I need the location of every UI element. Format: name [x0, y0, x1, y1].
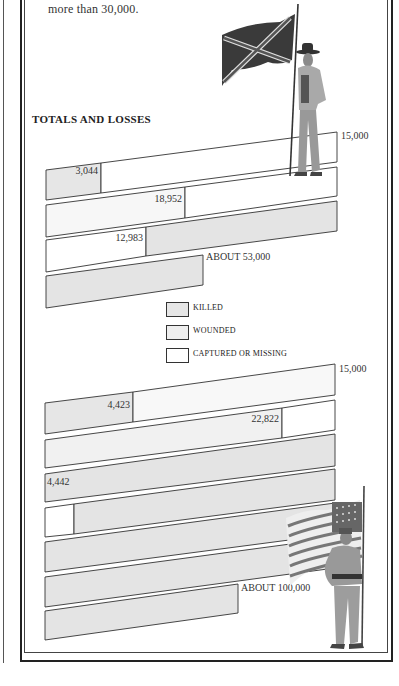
- c2-band2-captured: [282, 400, 335, 438]
- legend-item-killed: KILLED: [166, 302, 287, 325]
- c2-scale-label: 15,000: [339, 363, 367, 374]
- legend-label: WOUNDED: [193, 326, 236, 335]
- c1-wounded-label: 18,952: [155, 193, 183, 204]
- chart-legend: KILLED WOUNDED CAPTURED OR MISSING: [166, 302, 287, 371]
- c2-captured-label: 4,442: [47, 476, 70, 487]
- c2-wounded-label: 22,822: [252, 413, 280, 424]
- c1-scale-label: 15,000: [341, 130, 369, 141]
- c2-killed-label: 4,423: [108, 399, 131, 410]
- c1-captured-label: 12,983: [116, 232, 144, 243]
- captured-swatch: [166, 348, 189, 363]
- legend-label: KILLED: [193, 303, 223, 312]
- c2-band4-captured: [45, 504, 74, 537]
- legend-item-captured: CAPTURED OR MISSING: [166, 348, 287, 371]
- c1-killed-label: 3,044: [76, 165, 99, 176]
- legend-label: CAPTURED OR MISSING: [193, 349, 287, 358]
- c1-total-label: ABOUT 53,000: [206, 251, 270, 262]
- wounded-swatch: [166, 325, 189, 340]
- confederate-soldier-illustration: [210, 0, 330, 185]
- legend-item-wounded: WOUNDED: [166, 325, 287, 348]
- killed-swatch: [166, 302, 189, 317]
- union-soldier-illustration: [282, 478, 372, 658]
